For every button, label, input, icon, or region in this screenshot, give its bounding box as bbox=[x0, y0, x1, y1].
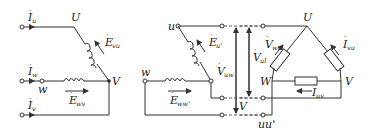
right-circuit: U W V uu' · Vwu · Ivu · Iuv bbox=[240, 11, 355, 131]
svg-text:uu': uu' bbox=[258, 118, 275, 131]
svg-text:wu: wu bbox=[272, 44, 282, 52]
svg-text:ul: ul bbox=[260, 57, 266, 65]
svg-text:U: U bbox=[303, 11, 313, 24]
svg-text:U: U bbox=[71, 11, 81, 24]
svg-text:u: u bbox=[32, 17, 36, 25]
left-circuit: · Iu · Iw · Iv U V w · Evu · Ewv bbox=[20, 6, 121, 117]
svg-text:v: v bbox=[32, 105, 36, 113]
svg-text:uw: uw bbox=[224, 71, 234, 79]
svg-text:uv: uv bbox=[316, 92, 324, 100]
svg-text:w: w bbox=[141, 66, 151, 79]
svg-text:W: W bbox=[260, 75, 273, 88]
delta-connection-diagram: · Iu · Iw · Iv U V w · Evu · Ewv bbox=[0, 0, 368, 133]
middle-circuit: u w · Eu' · Eww' · Vuw · Vul · V bbox=[141, 20, 266, 117]
svg-text:u: u bbox=[168, 20, 175, 33]
svg-text:V: V bbox=[239, 100, 248, 113]
svg-text:vu: vu bbox=[112, 42, 120, 50]
svg-text:V: V bbox=[345, 75, 354, 88]
svg-text:u': u' bbox=[216, 42, 222, 50]
svg-text:w: w bbox=[38, 83, 48, 96]
svg-text:ww': ww' bbox=[177, 100, 190, 108]
svg-text:V: V bbox=[112, 75, 121, 88]
svg-text:wv: wv bbox=[76, 100, 86, 108]
svg-text:w: w bbox=[32, 71, 38, 79]
svg-text:vu: vu bbox=[347, 44, 355, 52]
